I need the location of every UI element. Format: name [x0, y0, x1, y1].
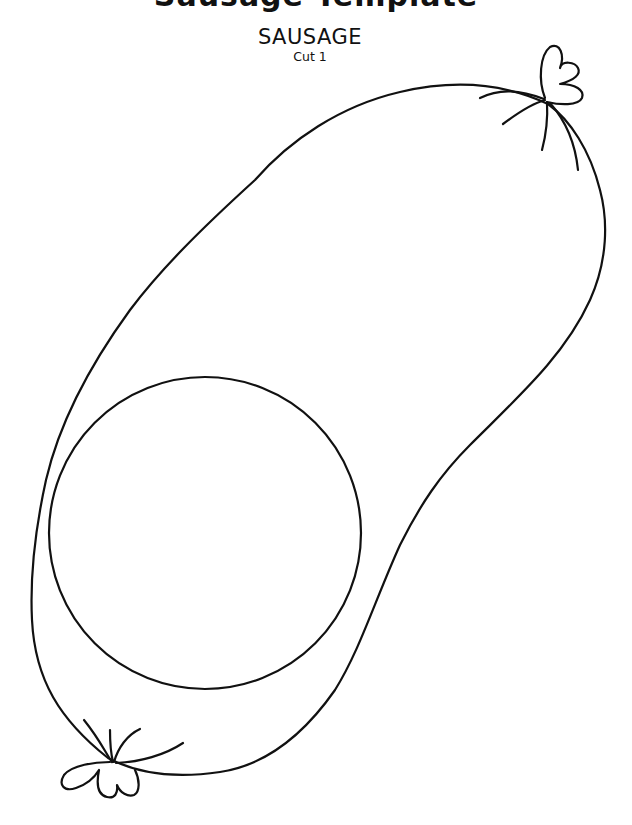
sausage-outline [32, 85, 606, 775]
sausage-illustration [0, 0, 632, 825]
top-knot-string [503, 100, 545, 124]
cut-circle [49, 377, 361, 689]
bottom-knot-string [116, 743, 183, 763]
top-knot-petals [541, 46, 583, 104]
bottom-knot-string [110, 730, 113, 762]
top-knot-string [550, 103, 578, 170]
top-knot-string [542, 102, 547, 150]
bottom-knot-string [114, 729, 140, 762]
